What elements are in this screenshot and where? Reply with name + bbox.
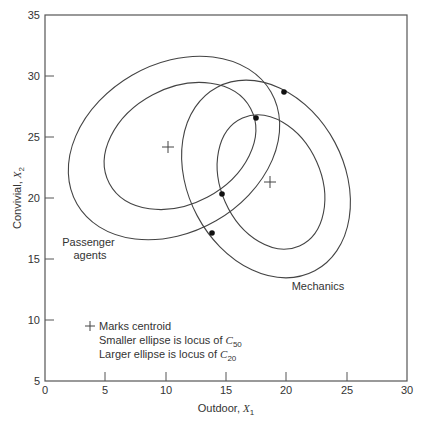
y-tick-label: 15 <box>28 253 40 265</box>
x-tick-label: 30 <box>401 384 413 396</box>
chart-canvas: 5 10 15 20 25 30 35 0 5 10 15 20 25 30 O… <box>0 0 427 422</box>
y-tick-label: 10 <box>28 314 40 326</box>
legend-centroid-text: Marks centroid <box>99 320 171 332</box>
y-axis <box>45 76 54 320</box>
passenger-ellipse-c50 <box>82 57 278 235</box>
y-axis-title: Convivial, X2 <box>11 166 26 228</box>
y-tick-label: 5 <box>34 375 40 387</box>
x-tick-label: 10 <box>160 384 172 396</box>
y-tick-label: 30 <box>28 70 40 82</box>
x-tick-label: 15 <box>220 384 232 396</box>
y-tick-label: 35 <box>28 9 40 21</box>
legend-larger-ellipse: Larger ellipse is locus of C20 <box>99 348 237 363</box>
y-tick-labels: 5 10 15 20 25 30 35 <box>28 9 40 387</box>
mechanics-ellipse-c20 <box>148 51 383 308</box>
passenger-centroid-icon <box>162 141 174 153</box>
y-tick-label: 20 <box>28 192 40 204</box>
legend-smaller-ellipse: Smaller ellipse is locus of C50 <box>99 334 242 349</box>
legend: Marks centroid Smaller ellipse is locus … <box>85 320 242 363</box>
x-tick-label: 0 <box>42 384 48 396</box>
intersection-point <box>281 89 287 95</box>
x-tick-label: 20 <box>280 384 292 396</box>
x-axis-title: Outdoor, X1 <box>198 402 255 417</box>
x-tick-label: 25 <box>341 384 353 396</box>
x-tick-label: 5 <box>102 384 108 396</box>
x-axis <box>105 372 347 381</box>
intersection-point <box>209 230 215 236</box>
intersection-point <box>253 115 259 121</box>
intersection-point <box>219 191 225 197</box>
legend-centroid-icon <box>85 321 95 331</box>
x-tick-labels: 0 5 10 15 20 25 30 <box>42 384 413 396</box>
mechanics-label: Mechanics <box>292 280 345 292</box>
y-tick-label: 25 <box>28 131 40 143</box>
mechanics-centroid-icon <box>264 176 276 188</box>
passenger-agents-label: Passenger agents <box>62 236 118 261</box>
